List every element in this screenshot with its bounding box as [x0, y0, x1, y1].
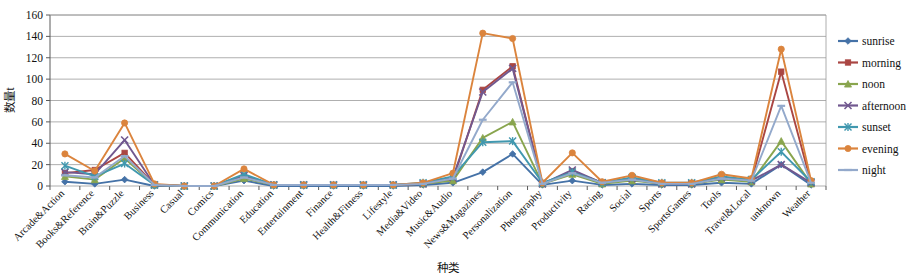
series-night — [61, 82, 815, 186]
legend-item-afternoon[interactable]: afternoon — [838, 100, 906, 112]
y-tick-label: 100 — [26, 73, 44, 85]
x-category-label: Arcade&Action — [11, 187, 67, 243]
x-category-label: Communication — [190, 187, 246, 243]
y-tick-label: 60 — [32, 116, 44, 128]
x-category-label: Weather — [780, 187, 813, 220]
data-point-circle — [510, 35, 516, 41]
x-category-label: Sports — [637, 188, 664, 215]
y-tick-label: 40 — [32, 137, 44, 149]
data-point-circle — [718, 171, 724, 177]
legend-item-morning[interactable]: morning — [838, 57, 901, 70]
legend-label-afternoon: afternoon — [862, 100, 906, 112]
series-line-afternoon — [65, 68, 811, 186]
data-point-diamond — [121, 176, 128, 183]
series-afternoon — [61, 65, 814, 190]
series-line-night — [65, 82, 811, 186]
chart-canvas: 020406080100120140160 Arcade&ActionBooks… — [0, 0, 916, 280]
data-point-triangle — [778, 138, 785, 145]
data-point-diamond — [845, 38, 852, 45]
data-point-square — [779, 69, 784, 74]
line-chart: 020406080100120140160 Arcade&ActionBooks… — [0, 0, 916, 280]
series-line-noon — [65, 122, 811, 186]
series-line-sunset — [65, 141, 811, 186]
data-point-cross — [121, 137, 128, 144]
series-morning — [62, 64, 814, 189]
x-category-label: Tools — [699, 188, 723, 212]
y-tick-label: 20 — [32, 159, 44, 171]
y-tick-label: 0 — [37, 180, 43, 192]
legend-label-morning: morning — [862, 57, 901, 70]
x-category-label: Racing — [575, 187, 604, 216]
legend-label-noon: noon — [862, 78, 885, 90]
data-point-circle — [92, 168, 98, 174]
series-sunrise — [62, 151, 815, 190]
series-evening — [62, 30, 814, 189]
y-tick-label: 160 — [26, 9, 44, 21]
data-point-circle — [845, 145, 851, 151]
y-tick-label: 80 — [32, 95, 44, 107]
legend-item-noon[interactable]: noon — [838, 78, 885, 90]
x-category-label: Social — [607, 188, 633, 214]
data-point-circle — [241, 166, 247, 172]
series-lines — [61, 30, 815, 190]
legend-item-sunset[interactable]: sunset — [838, 121, 892, 133]
data-point-star — [121, 160, 128, 168]
y-axis-title: 数量t — [3, 87, 16, 113]
y-tick-label: 120 — [26, 52, 44, 64]
data-point-circle — [480, 30, 486, 36]
series-line-morning — [65, 66, 811, 186]
data-point-circle — [569, 150, 575, 156]
legend-label-sunset: sunset — [862, 121, 892, 133]
y-tick-label: 140 — [26, 30, 44, 42]
category-labels: Arcade&ActionBooks&ReferenceBrain&Puzzle… — [11, 187, 813, 250]
x-axis-title: 种类 — [437, 261, 460, 274]
legend-item-evening[interactable]: evening — [838, 143, 899, 156]
legend-item-sunrise[interactable]: sunrise — [838, 35, 895, 47]
data-point-square — [845, 60, 850, 65]
data-point-diamond — [569, 177, 576, 184]
series-line-evening — [65, 33, 811, 186]
data-point-circle — [122, 120, 128, 126]
x-category-label: unknown — [747, 187, 783, 223]
chart-legend: sunrisemorningnoonafternoonsunsetevening… — [838, 35, 906, 177]
legend-label-sunrise: sunrise — [862, 35, 895, 47]
data-point-circle — [629, 172, 635, 178]
legend-item-night[interactable]: night — [838, 164, 886, 177]
legend-label-evening: evening — [862, 143, 899, 156]
x-category-label: Casual — [158, 188, 186, 216]
data-point-circle — [62, 151, 68, 157]
legend-label-night: night — [862, 164, 886, 177]
gridlines — [50, 15, 826, 186]
data-point-star — [778, 148, 785, 156]
y-axis-ticks: 020406080100120140160 — [26, 9, 50, 192]
data-point-circle — [778, 46, 784, 52]
x-category-label: Business — [122, 188, 156, 222]
